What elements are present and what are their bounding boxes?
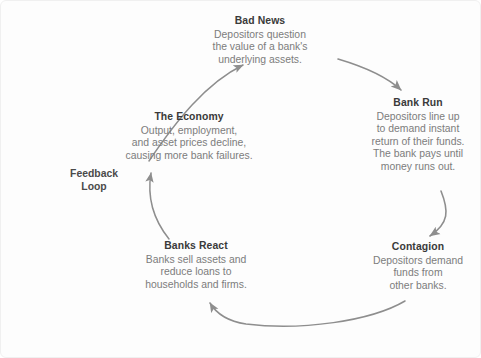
- node-bad-news-line-1: Depositors question: [194, 29, 326, 42]
- node-bank-run-line-3: return of their funds.: [356, 136, 480, 149]
- node-bank-run-line-1: Depositors line up: [356, 111, 480, 124]
- node-bad-news: Bad News Depositors question the value o…: [194, 15, 326, 66]
- node-banks-react-line-3: households and firms.: [123, 279, 269, 292]
- node-contagion-line-2: funds from: [359, 267, 477, 280]
- node-economy-line-1: Output, employment,: [113, 125, 265, 138]
- node-bad-news-line-2: the value of a bank's: [194, 41, 326, 54]
- node-banks-react-title: Banks React: [123, 240, 269, 253]
- feedback-loop-label: Feedback Loop: [57, 168, 131, 193]
- node-bank-run: Bank Run Depositors line up to demand in…: [356, 97, 480, 174]
- node-contagion-line-1: Depositors demand: [359, 255, 477, 268]
- node-economy: The Economy Output, employment, and asse…: [113, 111, 265, 162]
- node-bad-news-line-3: underlying assets.: [194, 54, 326, 67]
- arrow-banks-react-to-economy: [150, 173, 169, 239]
- feedback-loop-label-line-1: Feedback: [70, 168, 118, 179]
- node-bank-run-line-4: The bank pays until: [356, 148, 480, 161]
- node-banks-react: Banks React Banks sell assets and reduce…: [123, 240, 269, 291]
- node-bank-run-line-2: to demand instant: [356, 123, 480, 136]
- arrow-bank-run-to-contagion: [430, 191, 446, 236]
- node-economy-line-3: causing more bank failures.: [113, 150, 265, 163]
- node-economy-title: The Economy: [113, 111, 265, 124]
- feedback-loop-label-line-2: Loop: [81, 181, 106, 192]
- node-bank-run-line-5: money runs out.: [356, 161, 480, 174]
- node-banks-react-line-1: Banks sell assets and: [123, 254, 269, 267]
- node-contagion-line-3: other banks.: [359, 280, 477, 293]
- node-economy-line-2: and asset prices decline,: [113, 137, 265, 150]
- arrow-contagion-to-banks-react: [210, 301, 405, 326]
- node-bank-run-title: Bank Run: [356, 97, 480, 110]
- node-contagion-title: Contagion: [359, 241, 477, 254]
- node-contagion: Contagion Depositors demand funds from o…: [359, 241, 477, 292]
- cycle-diagram-canvas: Bad News Depositors question the value o…: [0, 0, 481, 358]
- node-bad-news-title: Bad News: [194, 15, 326, 28]
- node-banks-react-line-2: reduce loans to: [123, 266, 269, 279]
- arrow-bad-news-to-bank-run: [338, 59, 401, 90]
